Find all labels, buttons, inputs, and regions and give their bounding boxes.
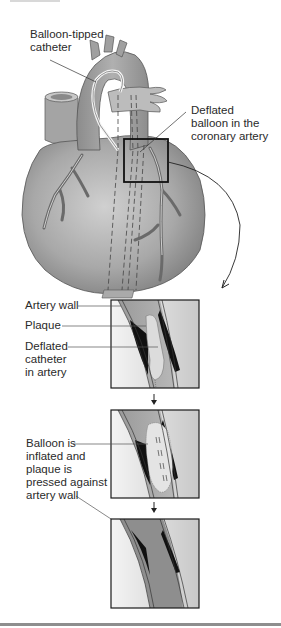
leader-catheter <box>50 60 96 82</box>
heart-illustration <box>0 0 281 628</box>
vena-cava <box>45 92 78 144</box>
heart-body <box>22 135 205 293</box>
label-balloon-inflated: Balloon is inflated and plaque is presse… <box>26 437 107 502</box>
label-deflated-catheter: Deflated catheter in artery <box>25 340 68 379</box>
bottom-rule <box>0 623 281 626</box>
label-balloon-tipped-catheter: Balloon-tipped catheter <box>30 28 104 54</box>
label-deflated-balloon: Deflated balloon in the coronary artery <box>191 104 268 143</box>
label-plaque: Plaque <box>25 319 61 332</box>
panel-2-artwork <box>111 410 199 498</box>
panel-3-artwork <box>111 519 199 608</box>
panel-1-artwork <box>111 300 199 388</box>
label-artery-wall: Artery wall <box>25 299 79 312</box>
step-arrow-2 <box>151 502 157 513</box>
step-arrow-1 <box>151 394 157 405</box>
